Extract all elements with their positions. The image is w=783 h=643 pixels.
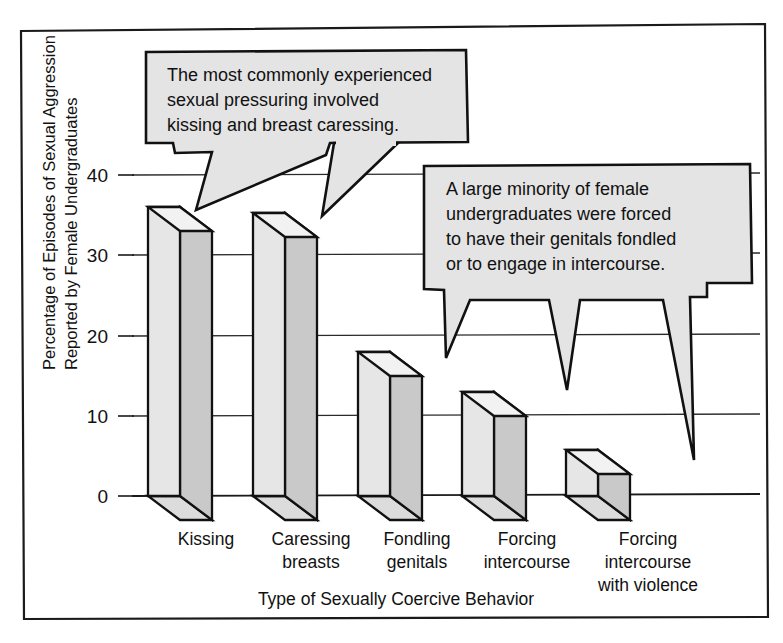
callout-1-line-1: The most commonly experienced <box>167 65 432 85</box>
bar-caressing-breasts-front <box>253 213 285 496</box>
callout-seam-mask-1 <box>336 138 396 146</box>
gridline-10 <box>132 414 760 416</box>
category-label-forcing-intercourse-with-violence-line-1: Forcing <box>619 529 677 549</box>
callout-1-line-3: kissing and breast caressing. <box>167 115 399 135</box>
category-label-fondling-genitals: Fondling genitals <box>383 529 450 572</box>
category-label-forcing-intercourse-with-violence: Forcing intercourse with violence <box>597 529 698 595</box>
category-label-forcing-intercourse-line-1: Forcing <box>498 529 556 549</box>
bar-caressing-breasts-side <box>285 213 317 520</box>
category-label-forcing-intercourse: Forcing intercourse <box>484 529 571 572</box>
callout-1-line-2: sexual pressuring involved <box>167 90 379 110</box>
x-axis-baseline <box>132 494 760 496</box>
callout-2-line-4: or to engage in intercourse. <box>446 254 665 274</box>
ytick-label-40: 40 <box>87 165 108 186</box>
ytick-label-20: 20 <box>87 326 108 347</box>
x-axis-title: Type of Sexually Coercive Behavior <box>258 589 534 609</box>
ytick-label-30: 30 <box>87 245 108 266</box>
bar-kissing-front <box>148 207 180 496</box>
category-label-fondling-genitals-line-2: genitals <box>387 552 448 572</box>
category-label-forcing-intercourse-with-violence-line-3: with violence <box>597 575 698 595</box>
category-label-fondling-genitals-line-1: Fondling <box>383 529 450 549</box>
callout-2-line-2: undergraduates were forced <box>446 204 671 224</box>
y-axis-title-line-2: Reported by Female Undergraduates <box>62 98 80 370</box>
category-label-kissing-line-1: Kissing <box>178 529 234 549</box>
ytick-label-0: 0 <box>97 486 108 507</box>
bar-caressing-breasts <box>253 213 317 520</box>
bar-kissing-side <box>180 207 212 520</box>
y-tickmarks <box>118 175 134 496</box>
category-label-forcing-intercourse-with-violence-line-2: intercourse <box>605 552 692 572</box>
y-axis-title-line-1: Percentage of Episodes of Sexual Aggress… <box>40 35 58 370</box>
chart-canvas: 40 30 20 10 0 Percentage of Episodes of … <box>0 0 783 643</box>
bar-fondling-genitals <box>358 352 422 520</box>
category-label-caressing-breasts: Caressing breasts <box>272 529 351 572</box>
bar-fondling-genitals-side <box>390 352 422 520</box>
category-label-caressing-breasts-line-2: breasts <box>282 552 340 572</box>
bar-forcing-intercourse <box>462 392 526 520</box>
ytick-label-10: 10 <box>87 406 108 427</box>
callout-kissing-caressing-tail-2 <box>322 143 398 216</box>
figure-container: 40 30 20 10 0 Percentage of Episodes of … <box>0 0 783 643</box>
category-label-kissing: Kissing <box>178 529 234 549</box>
bar-forcing-intercourse-with-violence <box>566 450 630 520</box>
category-label-caressing-breasts-line-1: Caressing <box>272 529 351 549</box>
callout-2-line-3: to have their genitals fondled <box>446 229 676 249</box>
callout-2-line-1: A large minority of female <box>446 179 649 199</box>
bar-kissing <box>148 207 212 520</box>
category-label-forcing-intercourse-line-2: intercourse <box>484 552 571 572</box>
